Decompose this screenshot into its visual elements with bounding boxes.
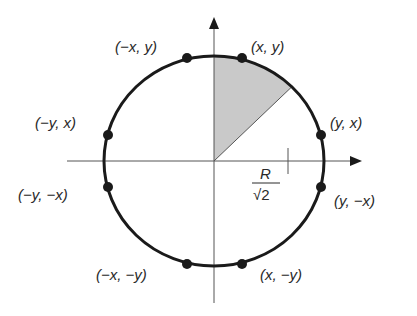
label-negx-y: (−x, y) <box>115 38 157 55</box>
point-x-negy <box>237 259 247 269</box>
label-negx-negy: (−x, −y) <box>96 266 147 283</box>
y-axis-arrow-icon <box>209 17 219 29</box>
x-axis-arrow-icon <box>350 156 362 166</box>
tick-label-denominator: √2 <box>253 186 270 203</box>
circle-symmetry-diagram: (x, y) (−x, y) (y, x) (−y, x) (y, −x) (−… <box>0 0 417 316</box>
point-y-negx <box>316 182 326 192</box>
label-x-negy: (x, −y) <box>260 266 302 283</box>
label-negy-x: (−y, x) <box>35 114 76 131</box>
label-y-negx: (y, −x) <box>334 192 375 209</box>
tick-label-numerator: R <box>260 165 271 182</box>
label-negy-negx: (−y, −x) <box>18 186 68 203</box>
point-x-y <box>237 53 247 63</box>
label-x-y: (x, y) <box>251 38 284 55</box>
label-y-x: (y, x) <box>330 114 362 131</box>
point-negx-negy <box>182 259 192 269</box>
point-negy-x <box>103 130 113 140</box>
point-negy-negx <box>103 182 113 192</box>
shaded-octant <box>214 56 292 161</box>
point-y-x <box>316 130 326 140</box>
point-negx-y <box>182 53 192 63</box>
